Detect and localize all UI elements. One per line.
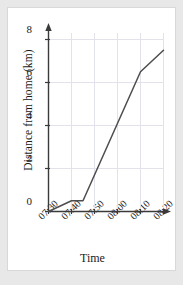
horizontal-gridlines — [48, 40, 163, 212]
x-axis-spine — [49, 208, 172, 214]
y-tick-label-0: 0 — [16, 195, 32, 207]
y-tick-marks — [45, 40, 50, 212]
vertical-gridlines — [49, 33, 164, 211]
y-tick-label-4: 4 — [16, 109, 32, 121]
plot-area — [41, 23, 171, 221]
distance-time-line — [49, 50, 164, 211]
y-tick-label-8: 8 — [16, 23, 32, 35]
y-tick-label-2: 2 — [16, 152, 32, 164]
y-axis-spine — [45, 23, 51, 212]
chart-card: Distance from home (km) 0 2 4 6 8 07:30 … — [7, 7, 176, 271]
y-tick-label-6: 6 — [16, 66, 32, 78]
x-axis-title: Time — [8, 251, 177, 266]
